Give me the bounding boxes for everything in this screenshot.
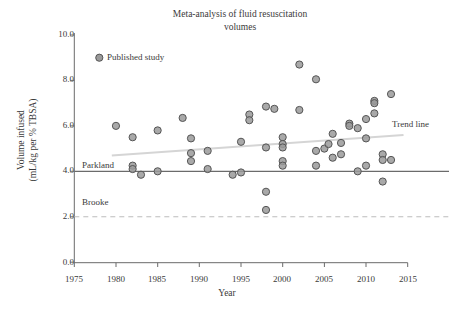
data-point bbox=[296, 106, 303, 113]
legend-marker-icon bbox=[96, 54, 103, 61]
chart-figure: Meta-analysis of fluid resuscitation vol… bbox=[0, 0, 454, 314]
data-point bbox=[296, 61, 303, 68]
plot-canvas bbox=[0, 0, 454, 314]
data-point bbox=[346, 122, 353, 129]
data-point bbox=[371, 100, 378, 107]
data-point bbox=[362, 135, 369, 142]
data-point bbox=[354, 168, 361, 175]
data-point bbox=[137, 171, 144, 178]
y-axis-ticks bbox=[70, 35, 74, 262]
data-point bbox=[154, 168, 161, 175]
data-point bbox=[279, 162, 286, 169]
x-axis-ticks bbox=[74, 263, 407, 267]
data-point bbox=[129, 134, 136, 141]
data-point bbox=[262, 188, 269, 195]
data-point bbox=[312, 147, 319, 154]
data-point bbox=[246, 117, 253, 124]
data-point bbox=[187, 158, 194, 165]
reference-lines bbox=[74, 171, 449, 216]
data-point bbox=[337, 139, 344, 146]
data-point bbox=[379, 156, 386, 163]
data-point bbox=[371, 110, 378, 117]
data-point bbox=[204, 147, 211, 154]
data-point bbox=[312, 76, 319, 83]
data-point bbox=[204, 165, 211, 172]
data-point bbox=[387, 90, 394, 97]
data-point bbox=[154, 127, 161, 134]
data-point bbox=[112, 122, 119, 129]
data-point bbox=[279, 134, 286, 141]
data-point bbox=[337, 151, 344, 158]
data-point bbox=[279, 144, 286, 151]
data-point bbox=[387, 156, 394, 163]
data-point bbox=[354, 125, 361, 132]
data-point bbox=[312, 162, 319, 169]
axes bbox=[70, 33, 408, 267]
data-point bbox=[237, 169, 244, 176]
data-point bbox=[179, 114, 186, 121]
data-point bbox=[237, 138, 244, 145]
data-point bbox=[262, 103, 269, 110]
data-point bbox=[187, 135, 194, 142]
data-point bbox=[362, 115, 369, 122]
data-point bbox=[325, 140, 332, 147]
scatter-points bbox=[112, 61, 394, 214]
data-point bbox=[271, 105, 278, 112]
trend-line bbox=[112, 135, 404, 155]
data-point bbox=[262, 206, 269, 213]
data-point bbox=[379, 178, 386, 185]
data-point bbox=[229, 171, 236, 178]
data-point bbox=[187, 150, 194, 157]
data-point bbox=[362, 162, 369, 169]
data-point bbox=[329, 130, 336, 137]
data-point bbox=[129, 165, 136, 172]
data-point bbox=[262, 144, 269, 151]
data-point bbox=[329, 154, 336, 161]
